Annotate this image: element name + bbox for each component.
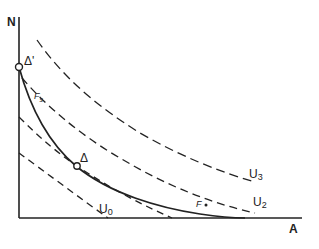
label-u0: U0 [99,203,113,217]
point-delta-prime [16,64,23,71]
label-u2-main: U [253,195,262,209]
label-u3-sub: 3 [258,172,263,182]
label-f-s-sub: s [40,96,44,103]
label-u2-sub: 2 [262,200,267,210]
label-u0-main: U [99,202,108,216]
label-f-s: Fs [34,92,43,103]
curve-u0 [19,153,108,218]
label-u3: U3 [249,168,263,182]
x-axis-label: A [289,223,298,235]
label-u2: U2 [253,196,267,210]
label-u0-sub: 0 [108,207,113,217]
label-u3-main: U [249,167,258,181]
point-f [205,204,208,207]
diagram-canvas [0,0,319,249]
y-axis-label: N [7,16,16,28]
diagram: N A Δ' Δ F Fs U0 U2 U3 [0,0,319,249]
label-delta: Δ [80,152,88,164]
label-delta-prime: Δ' [24,55,34,67]
label-f: F [196,200,202,209]
frontier-curve [19,67,245,218]
